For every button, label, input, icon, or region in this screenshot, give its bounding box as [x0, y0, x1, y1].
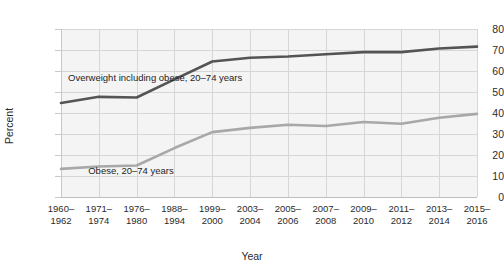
chart-container: 01020304050607080 1960–19621971–19741976… [0, 0, 504, 270]
series-lines [0, 0, 504, 270]
annotation-obese-line1: Obese, 20–74 years [88, 165, 174, 176]
annotation-overweight: Overweight including obese, 20–74 years [68, 72, 228, 84]
annotation-overweight-line1: Overweight including obese, [68, 72, 187, 83]
annotation-overweight-line2: 20–74 years [190, 72, 242, 83]
annotation-obese: Obese, 20–74 years [66, 165, 196, 177]
line-obese [61, 114, 477, 169]
